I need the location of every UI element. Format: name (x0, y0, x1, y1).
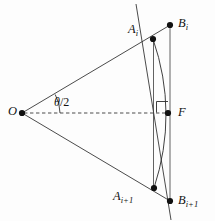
label-angle-theta-half: θ/2 (54, 96, 69, 108)
label-point-aip1-subscript: i+1 (121, 195, 134, 205)
label-point-ai: Ai (128, 23, 138, 36)
point-Ai-dot (150, 36, 156, 42)
geometry-figure: O F Ai Bi Ai+1 Bi+1 θ/2 (0, 0, 215, 221)
label-point-bi-subscript: i (186, 22, 188, 32)
point-F-dot (165, 110, 171, 116)
point-Bi-dot (167, 22, 173, 28)
ray-lower (22, 113, 171, 202)
label-point-bip1: Bi+1 (178, 194, 198, 207)
label-point-aip1-base: A (113, 189, 121, 203)
label-point-bip1-subscript: i+1 (186, 199, 199, 209)
label-point-o: O (8, 105, 17, 118)
label-point-bi-base: B (178, 16, 186, 30)
point-O-dot (19, 110, 25, 116)
theta-divisor: /2 (60, 95, 69, 109)
label-point-ai-subscript: i (136, 28, 138, 38)
ray-upper (22, 25, 171, 114)
label-point-ai-base: A (128, 22, 136, 36)
point-Aip1-dot (151, 185, 157, 191)
label-point-aip1: Ai+1 (113, 190, 133, 203)
label-point-bi: Bi (178, 17, 188, 30)
label-point-bip1-base: B (178, 193, 186, 207)
circle-arc (153, 39, 166, 188)
label-point-f: F (178, 106, 186, 119)
point-Bip1-dot (167, 198, 173, 204)
